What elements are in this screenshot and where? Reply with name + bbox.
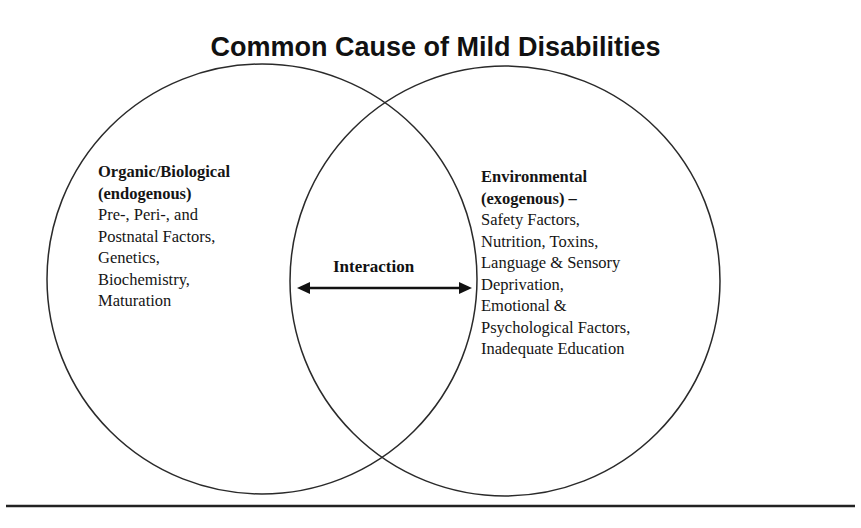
left-item: Postnatal Factors,: [98, 226, 230, 248]
left-item: Biochemistry,: [98, 269, 230, 291]
left-item: Pre-, Peri-, and: [98, 204, 230, 226]
left-circle-text: Organic/Biological (endogenous) Pre-, Pe…: [98, 161, 230, 312]
left-heading-line: (endogenous): [98, 183, 230, 205]
left-heading-line: Organic/Biological: [98, 161, 230, 183]
left-item: Maturation: [98, 290, 230, 312]
right-item: Psychological Factors,: [481, 317, 630, 339]
right-heading-line: (exogenous) –: [481, 188, 630, 210]
right-item: Inadequate Education: [481, 338, 630, 360]
right-item: Nutrition, Toxins,: [481, 231, 630, 253]
interaction-label: Interaction: [333, 257, 414, 277]
right-item: Safety Factors,: [481, 209, 630, 231]
right-circle-text: Environmental (exogenous) – Safety Facto…: [481, 166, 630, 360]
double-headed-arrow-icon: [297, 282, 472, 294]
right-item: Deprivation,: [481, 274, 630, 296]
right-item: Emotional &: [481, 295, 630, 317]
right-heading-line: Environmental: [481, 166, 630, 188]
right-item: Language & Sensory: [481, 252, 630, 274]
left-item: Genetics,: [98, 247, 230, 269]
